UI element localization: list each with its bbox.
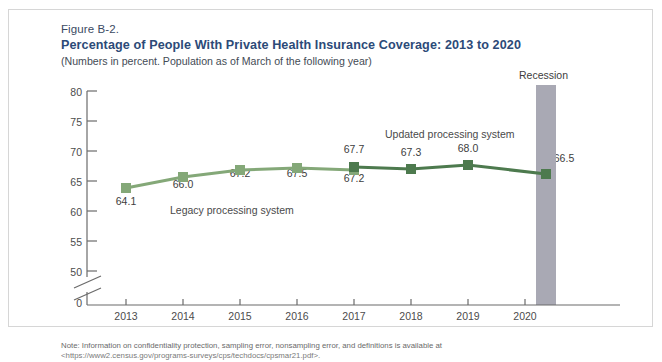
y-tick-label-60: 60 [58,206,82,218]
y-tick-label-0: 0 [58,297,82,309]
data-label-2015-legacy: 67.2 [216,167,264,179]
x-tick-label-2018: 2018 [387,310,435,322]
figure-note: Note: Information on confidentiality pro… [61,341,442,361]
recession-annotation-label: Recession [519,69,568,81]
data-label-2016-legacy: 67.5 [273,167,321,179]
y-tick-label-70: 70 [58,146,82,158]
figure-number: Figure B-2. [61,23,119,35]
x-tick-label-2020: 2020 [501,310,549,322]
data-label-2019-updated: 68.0 [444,142,492,154]
figure-container: Figure B-2. Percentage of People With Pr… [0,0,662,362]
y-tick-label-65: 65 [58,176,82,188]
data-label-2017-updated: 67.7 [330,143,378,155]
figure-note-line-1: Note: Information on confidentiality pro… [61,341,442,351]
figure-title: Percentage of People With Private Health… [61,38,521,52]
data-label-2018-updated: 67.3 [387,146,435,158]
x-tick-label-2016: 2016 [273,310,321,322]
y-tick-label-80: 80 [58,86,82,98]
data-label-2020-updated: 66.5 [540,152,588,164]
x-tick-label-2017: 2017 [330,310,378,322]
data-label-2014-legacy: 66.0 [159,178,207,190]
x-tick-label-2013: 2013 [102,310,150,322]
y-tick-label-75: 75 [58,116,82,128]
data-label-2013-legacy: 64.1 [102,195,150,207]
x-tick-label-2015: 2015 [216,310,264,322]
x-tick-label-2014: 2014 [159,310,207,322]
figure-subtitle: (Numbers in percent. Population as of Ma… [61,55,372,67]
figure-note-line-2: <https://www2.census.gov/programs-survey… [61,351,442,361]
legacy-series-label: Legacy processing system [170,204,294,216]
x-tick-label-2019: 2019 [444,310,492,322]
y-tick-label-50: 50 [58,266,82,278]
y-tick-label-55: 55 [58,236,82,248]
data-label-2017-legacy: 67.2 [330,172,378,184]
updated-series-label: Updated processing system [385,128,515,140]
